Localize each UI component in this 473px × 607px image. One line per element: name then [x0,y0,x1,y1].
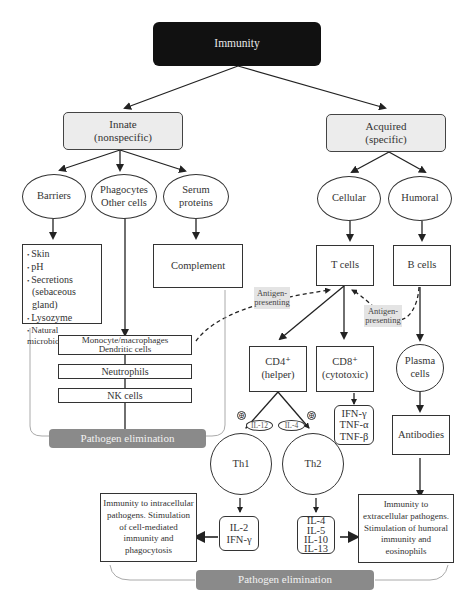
antigen-tag-1-line2: presenting [254,298,289,307]
th1-cytokines: IL-2 IFN-γ [219,516,259,551]
phagocytes-label-1: Phagocytes [100,184,148,197]
acquired-sublabel: (specific) [365,133,407,146]
il4-label: IL-4 [285,421,298,430]
t-cells-label: T cells [331,259,359,272]
acquired-pathogen-elimination: Pathogen elimination [196,570,374,590]
cytokine: IFN-γ [226,534,251,545]
antigen-tag-2-line2: presenting [365,316,400,325]
th2-label: Th2 [305,458,322,471]
barriers-label: Barriers [37,190,71,203]
humoral-label: Humoral [401,192,438,205]
plus-icon-il12: ⊕ [237,411,246,420]
innate-node: Innate (nonspecific) [63,112,183,150]
barrier-item: Lysozyme [27,312,72,325]
immunity-title-node: Immunity [153,22,321,66]
th1-outcome-text: Immunity to intracellular pathogens. Sti… [103,498,194,556]
th2-node: Th2 [282,433,344,495]
monocyte-node: Monocyte/macrophages Dendritic cells [58,335,192,355]
th2-outcome-text: Immunity to extracellular pathogens. Sti… [361,499,451,557]
cd4-label-1: CD4⁺ [265,356,290,369]
serum-label-1: Serum [182,184,209,197]
antigen-presenting-tag-right: Antigen- presenting [364,305,402,327]
barrier-item: (sebaceous gland) [27,286,97,312]
barrier-item: Skin [27,248,50,261]
antibodies-node: Antibodies [392,415,450,455]
il12-ellipse: IL-12 [246,420,273,431]
b-cells-node: B cells [393,245,451,286]
monocyte-label-2: Dendritic cells [99,345,152,354]
innate-label: Innate [109,118,136,131]
antigen-presenting-tag-left: Antigen- presenting [254,287,290,309]
humoral-node: Humoral [388,176,452,221]
il12-label: IL-12 [251,421,268,430]
neutrophils-label: Neutrophils [101,366,148,378]
innate-outcome-label: Pathogen elimination [81,432,175,445]
cytokine: IL-13 [304,544,328,553]
neutrophils-node: Neutrophils [58,364,192,379]
acquired-outcome-label: Pathogen elimination [238,573,332,586]
complement-label: Complement [171,260,225,273]
serum-label-2: proteins [179,197,213,210]
barrier-item: Secretions [27,274,73,287]
phagocytes-label-2: Other cells [101,197,147,210]
barrier-item: pH [27,261,43,274]
cytokine: TNF-α [340,419,369,430]
nk-cells-label: NK cells [107,390,142,402]
b-cells-label: B cells [408,259,437,272]
th2-outcome-box: Immunity to extracellular pathogens. Sti… [358,494,454,563]
plus-icon-il4: ⊕ [307,411,316,420]
phagocytes-node: Phagocytes Other cells [91,174,157,219]
barriers-node: Barriers [22,174,86,219]
cellular-node: Cellular [317,176,381,221]
immunity-title: Immunity [214,37,259,51]
serum-proteins-node: Serum proteins [163,174,229,219]
plasma-label-2: cells [410,368,429,381]
plasma-cells-node: Plasma cells [396,344,444,392]
th1-node: Th1 [210,433,272,495]
antibodies-label: Antibodies [398,429,444,442]
th1-outcome-box: Immunity to intracellular pathogens. Sti… [100,493,197,562]
th1-label: Th1 [233,458,250,471]
cytokine: TNF-β [340,431,369,442]
t-cells-node: T cells [316,245,374,286]
innate-sublabel: (nonspecific) [94,131,152,144]
cd8-label-1: CD8⁺ [332,356,357,369]
cd8-cytokines: IFN-γ TNF-α TNF-β [334,405,374,445]
cd8-cytotoxic-node: CD8⁺ (cytotoxic) [316,346,374,392]
nk-cells-node: NK cells [58,388,192,403]
acquired-node: Acquired (specific) [326,114,446,152]
acquired-label: Acquired [366,120,407,133]
cd8-label-2: (cytotoxic) [322,369,368,382]
cd4-label-2: (helper) [261,369,294,382]
cytokine: IL-2 [230,522,249,533]
complement-node: Complement [153,244,243,288]
il4-ellipse: IL-4 [278,420,305,431]
cellular-label: Cellular [332,192,366,205]
immunity-diagram: Immunity Innate (nonspecific) Acquired (… [0,0,473,607]
innate-pathogen-elimination: Pathogen elimination [49,429,206,448]
barrier-list: Skin pH Secretions (sebaceous gland) Lys… [22,244,102,324]
th2-cytokines: IL-4 IL-5 IL-10 IL-13 [297,516,335,554]
cytokine: IFN-γ [341,408,366,419]
plasma-label-1: Plasma [405,355,435,368]
cd4-helper-node: CD4⁺ (helper) [249,346,307,392]
